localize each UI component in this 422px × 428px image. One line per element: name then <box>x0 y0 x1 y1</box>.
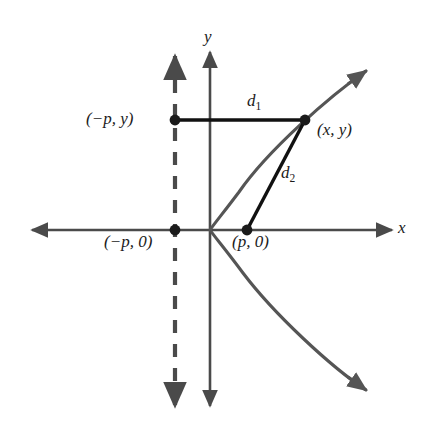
label-neg-p-y: (−p, y) <box>86 110 133 127</box>
label-x-y: (x, y) <box>317 121 352 138</box>
label-neg-p-zero: (−p, 0) <box>104 233 152 250</box>
label-d2-base: d <box>281 163 290 182</box>
x-axis-label: x <box>398 219 406 236</box>
label-d1: d1 <box>247 92 261 113</box>
segment-d2 <box>247 120 305 230</box>
label-d2: d2 <box>281 164 295 185</box>
parabola-lower-arrow <box>348 377 366 390</box>
parabola-upper-arrow <box>348 71 366 84</box>
figure-canvas <box>0 0 422 428</box>
label-d2-subscript: 2 <box>290 172 296 185</box>
parabola-figure: y x (−p, y) (x, y) (−p, 0) (p, 0) d1 d2 <box>0 0 422 428</box>
label-d1-base: d <box>247 91 256 110</box>
label-d1-subscript: 1 <box>256 100 262 113</box>
y-axis-label: y <box>204 28 212 45</box>
point-curve-point <box>300 115 311 126</box>
label-p-zero: (p, 0) <box>232 233 269 250</box>
point-directrix-foot <box>170 225 181 236</box>
point-directrix-point <box>170 115 181 126</box>
